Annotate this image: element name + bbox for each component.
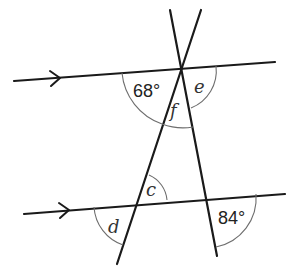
angle-label-d: d <box>108 216 120 237</box>
angle-label-84: 84° <box>218 208 245 228</box>
angle-diagram: 68° e f c d 84° <box>0 0 307 277</box>
right-transversal <box>170 10 217 256</box>
diagram-canvas: 68° e f c d 84° <box>0 0 307 277</box>
left-transversal <box>117 10 201 264</box>
angle-label-68: 68° <box>133 81 160 101</box>
angle-arc-f <box>162 124 193 128</box>
top-parallel-line <box>14 62 275 81</box>
angle-label-c: c <box>146 179 156 200</box>
angle-label-f: f <box>168 100 180 121</box>
angle-label-e: e <box>194 76 205 97</box>
